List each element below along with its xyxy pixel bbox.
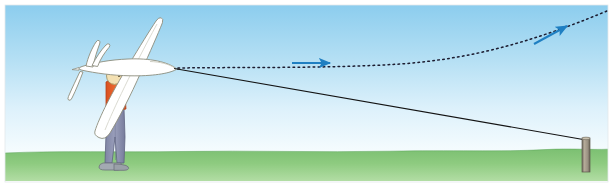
glider-launch-illustration: Bungee (hi-start) launch of a hand-held … xyxy=(0,0,613,187)
anchor-post xyxy=(582,137,590,172)
illustration-canvas: Bungee (hi-start) launch of a hand-held … xyxy=(0,0,613,187)
ground xyxy=(5,149,608,181)
